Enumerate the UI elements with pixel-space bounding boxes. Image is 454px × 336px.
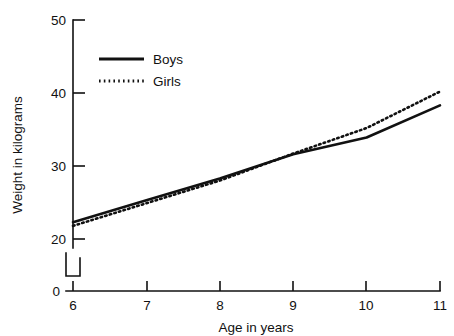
legend-label-boys: Boys [153,52,183,67]
x-tick-label-9: 9 [289,298,297,313]
y-tick-label-50: 50 [51,13,66,28]
x-tick-label-7: 7 [143,298,151,313]
y-axis-title: Weight in kilograms [10,96,25,214]
y-tick-label-20: 20 [51,232,66,247]
x-tick-label-6: 6 [69,298,77,313]
x-tick-label-11: 11 [433,298,447,313]
y-tick-label-0: 0 [52,284,60,299]
x-tick-label-8: 8 [216,298,224,313]
y-tick-label-30: 30 [51,159,66,174]
chart-background [0,0,454,336]
weight-by-age-line-chart: 50 40 30 20 0 6 7 8 9 10 11 Age in years… [0,0,454,336]
y-tick-label-40: 40 [51,86,66,101]
x-axis-title: Age in years [218,320,293,335]
x-tick-label-10: 10 [358,298,373,313]
legend-label-girls: Girls [153,74,181,89]
chart-container: 50 40 30 20 0 6 7 8 9 10 11 Age in years… [0,0,454,336]
